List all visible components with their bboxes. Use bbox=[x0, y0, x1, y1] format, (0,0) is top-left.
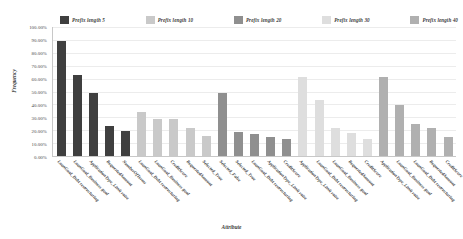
bar[interactable] bbox=[121, 131, 130, 156]
legend-item[interactable]: Prefix length 40 bbox=[410, 16, 458, 24]
bar-slot bbox=[150, 27, 166, 156]
legend-swatch-icon bbox=[322, 16, 331, 24]
bar-slot bbox=[440, 27, 456, 156]
x-tick-slot: Selected_True bbox=[230, 158, 246, 218]
x-axis-tick-labels: LoanGoal_Debt restructuringLoanGoal_Busi… bbox=[52, 158, 456, 218]
x-tick-slot: Selected_False bbox=[214, 158, 230, 218]
bar[interactable] bbox=[218, 93, 227, 156]
y-axis-tick-label: 30.00% bbox=[32, 116, 47, 121]
legend-item[interactable]: Prefix length 10 bbox=[146, 16, 194, 24]
bar-slot bbox=[69, 27, 85, 156]
bar-slot bbox=[118, 27, 134, 156]
bar[interactable] bbox=[73, 75, 82, 156]
bar-slot bbox=[343, 27, 359, 156]
bar[interactable] bbox=[266, 137, 275, 156]
y-axis-tick-label: 40.00% bbox=[32, 103, 47, 108]
bar[interactable] bbox=[57, 41, 66, 156]
legend-label: Prefix length 40 bbox=[422, 17, 458, 23]
x-tick-slot: LoanGoal_Debt restructuring bbox=[407, 158, 423, 218]
legend-label: Prefix length 5 bbox=[72, 17, 105, 23]
bar-slot bbox=[198, 27, 214, 156]
y-axis-tick-label: 20.00% bbox=[32, 129, 47, 134]
x-tick-slot: RequestedAmount bbox=[181, 158, 197, 218]
x-tick-slot: LoanGoal_Debt restructuring bbox=[246, 158, 262, 218]
bar[interactable] bbox=[379, 77, 388, 156]
bar-slot bbox=[53, 27, 69, 156]
bar-slot bbox=[263, 27, 279, 156]
bar[interactable] bbox=[331, 128, 340, 156]
y-axis-tick-labels: 100.00%90.00%80.00%70.00%60.00%50.00%40.… bbox=[0, 27, 50, 157]
bar-slot bbox=[182, 27, 198, 156]
plot-area bbox=[52, 27, 456, 157]
bar[interactable] bbox=[89, 93, 98, 156]
bar-slot bbox=[214, 27, 230, 156]
y-axis-tick-label: 100.00% bbox=[29, 25, 47, 30]
x-tick-slot: Selected_True bbox=[197, 158, 213, 218]
legend-item[interactable]: Prefix length 20 bbox=[234, 16, 282, 24]
bar[interactable] bbox=[186, 128, 195, 156]
legend-label: Prefix length 10 bbox=[158, 17, 194, 23]
y-axis-tick-label: 70.00% bbox=[32, 64, 47, 69]
x-tick-slot: ApplicationType_Limit raise bbox=[375, 158, 391, 218]
x-tick-slot: ApplicationType_Limit raise bbox=[294, 158, 310, 218]
bar-slot bbox=[392, 27, 408, 156]
x-tick-slot: LoanGoal_Debt restructuring bbox=[133, 158, 149, 218]
legend-label: Prefix length 30 bbox=[334, 17, 370, 23]
bar[interactable] bbox=[153, 119, 162, 156]
x-axis-tick-label: CreditScore bbox=[444, 159, 463, 178]
x-tick-slot: CreditScore bbox=[440, 158, 456, 218]
x-tick-slot: ApplicationType_Limit raise bbox=[262, 158, 278, 218]
x-tick-slot: CreditScore bbox=[359, 158, 375, 218]
bar[interactable] bbox=[427, 128, 436, 156]
bar-chart: Prefix length 5Prefix length 10Prefix le… bbox=[0, 0, 463, 239]
legend-swatch-icon bbox=[234, 16, 243, 24]
bar[interactable] bbox=[444, 137, 453, 156]
legend-swatch-icon bbox=[410, 16, 419, 24]
x-axis-title: Attribute bbox=[0, 224, 463, 230]
bar-slot bbox=[424, 27, 440, 156]
bar[interactable] bbox=[363, 139, 372, 156]
bar[interactable] bbox=[411, 124, 420, 156]
bar[interactable] bbox=[202, 136, 211, 156]
bar-slot bbox=[101, 27, 117, 156]
legend-item[interactable]: Prefix length 5 bbox=[60, 16, 105, 24]
bar[interactable] bbox=[137, 112, 146, 156]
y-axis-tick-label: 80.00% bbox=[32, 51, 47, 56]
bar[interactable] bbox=[282, 139, 291, 156]
y-axis-tick-label: 0.00% bbox=[34, 155, 47, 160]
bar-slot bbox=[311, 27, 327, 156]
bar[interactable] bbox=[105, 126, 114, 156]
x-tick-slot: LoanGoal_Business goal bbox=[391, 158, 407, 218]
bar[interactable] bbox=[169, 119, 178, 156]
bar[interactable] bbox=[234, 132, 243, 156]
bar-slot bbox=[247, 27, 263, 156]
x-tick-slot: RequestedAmount bbox=[424, 158, 440, 218]
bar-slot bbox=[327, 27, 343, 156]
x-tick-slot: NumberOfTerms bbox=[117, 158, 133, 218]
bar[interactable] bbox=[298, 77, 307, 156]
x-tick-slot: CreditScore bbox=[165, 158, 181, 218]
bar-slot bbox=[295, 27, 311, 156]
x-tick-slot: LoanGoal_Debt restructuring bbox=[52, 158, 68, 218]
bar-slot bbox=[408, 27, 424, 156]
bar-slot bbox=[166, 27, 182, 156]
bar[interactable] bbox=[347, 133, 356, 156]
x-tick-slot: LoanGoal_Debt restructuring bbox=[311, 158, 327, 218]
x-tick-slot: LoanGoal_Business goal bbox=[149, 158, 165, 218]
legend-label: Prefix length 20 bbox=[246, 17, 282, 23]
bar-slot bbox=[134, 27, 150, 156]
x-tick-slot: LoanGoal_Business goal bbox=[68, 158, 84, 218]
bar-slot bbox=[85, 27, 101, 156]
x-tick-slot: ApplicationType_Limit raise bbox=[84, 158, 100, 218]
bar[interactable] bbox=[395, 105, 404, 156]
bar-slot bbox=[279, 27, 295, 156]
x-tick-slot: RequestedAmount bbox=[100, 158, 116, 218]
bar[interactable] bbox=[315, 100, 324, 156]
x-tick-slot: LoanGoal_Business goal bbox=[327, 158, 343, 218]
bar[interactable] bbox=[250, 134, 259, 156]
legend-item[interactable]: Prefix length 30 bbox=[322, 16, 370, 24]
y-axis-tick-label: 10.00% bbox=[32, 142, 47, 147]
chart-legend: Prefix length 5Prefix length 10Prefix le… bbox=[60, 13, 458, 26]
bar-slot bbox=[376, 27, 392, 156]
bar-slot bbox=[359, 27, 375, 156]
